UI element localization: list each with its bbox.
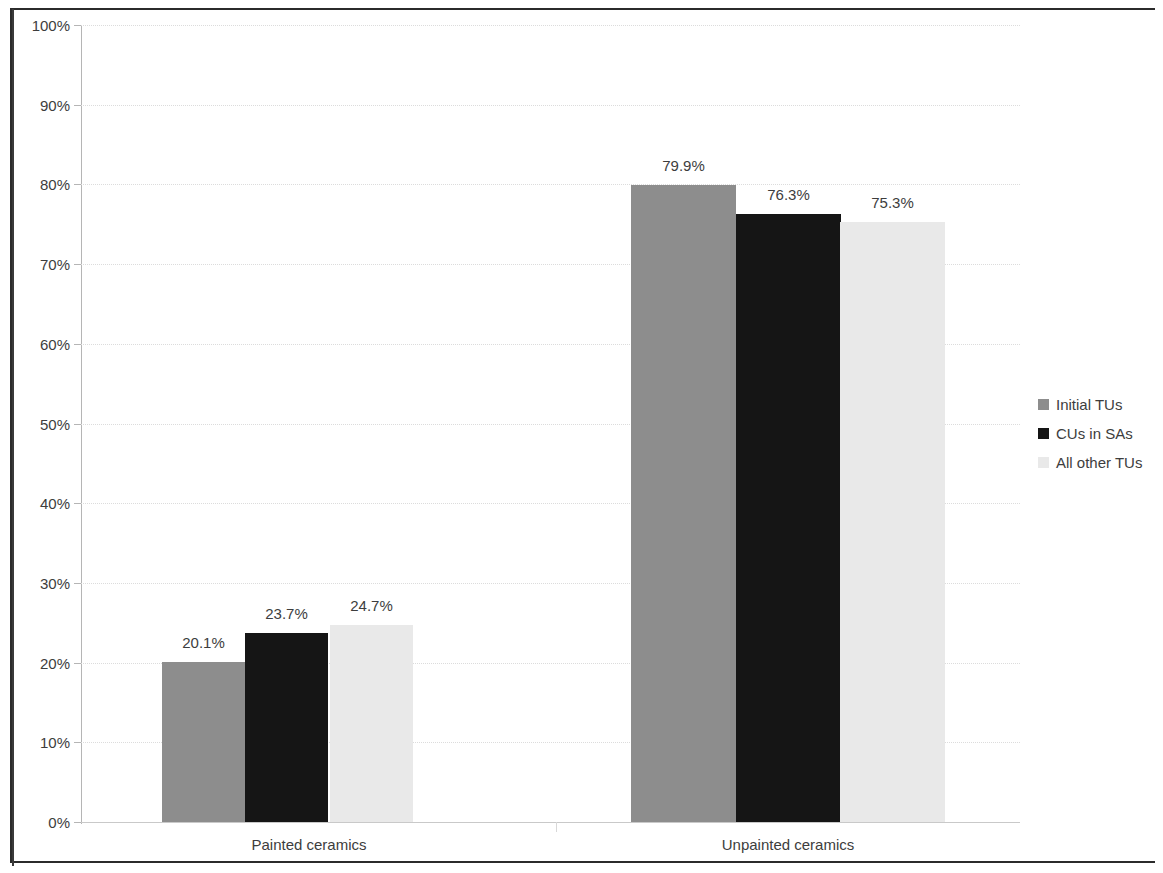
- y-axis-tick-label: 100%: [8, 17, 70, 34]
- bar: [330, 625, 413, 822]
- legend-item[interactable]: All other TUs: [1038, 448, 1163, 477]
- gridline-100: [81, 25, 1020, 26]
- bar-value-label: 76.3%: [767, 186, 810, 203]
- gridline-90: [81, 105, 1020, 106]
- legend-swatch-icon: [1038, 457, 1049, 468]
- bar-value-label: 20.1%: [182, 634, 225, 651]
- y-axis-tick: [74, 344, 81, 345]
- legend-item-label: Initial TUs: [1056, 396, 1122, 413]
- chart-legend: Initial TUsCUs in SAsAll other TUs: [1038, 390, 1163, 477]
- legend-item[interactable]: Initial TUs: [1038, 390, 1163, 419]
- y-axis-tick: [74, 424, 81, 425]
- chart-page: 0%10%20%30%40%50%60%70%80%90%100% Painte…: [0, 0, 1163, 873]
- bar: [736, 214, 841, 822]
- y-axis-labels: 0%10%20%30%40%50%60%70%80%90%100%: [0, 0, 70, 873]
- y-axis-tick: [74, 822, 81, 823]
- y-axis-tick: [74, 663, 81, 664]
- y-axis-tick: [74, 184, 81, 185]
- bar: [631, 185, 736, 822]
- bar-value-label: 79.9%: [662, 157, 705, 174]
- y-axis-tick-label: 20%: [8, 654, 70, 671]
- y-axis-tick-label: 10%: [8, 734, 70, 751]
- category-separator-tick: [556, 822, 557, 832]
- bar-value-label: 75.3%: [871, 194, 914, 211]
- y-axis-tick-label: 90%: [8, 96, 70, 113]
- bar-value-label: 24.7%: [350, 597, 393, 614]
- gridline-80: [81, 184, 1020, 185]
- bar: [162, 662, 245, 822]
- legend-swatch-icon: [1038, 428, 1049, 439]
- x-axis-category-label: Unpainted ceramics: [722, 836, 855, 853]
- y-axis-tick-label: 60%: [8, 335, 70, 352]
- y-axis-tick-label: 0%: [8, 814, 70, 831]
- y-axis-tick: [74, 105, 81, 106]
- x-axis-line: [81, 822, 1020, 823]
- y-axis-tick: [74, 25, 81, 26]
- y-axis-tick-label: 70%: [8, 256, 70, 273]
- y-axis-tick-label: 80%: [8, 176, 70, 193]
- legend-item-label: CUs in SAs: [1056, 425, 1133, 442]
- y-axis-tick-label: 30%: [8, 574, 70, 591]
- y-axis-tick-label: 40%: [8, 495, 70, 512]
- y-axis-tick: [74, 742, 81, 743]
- x-axis-category-label: Painted ceramics: [251, 836, 366, 853]
- legend-swatch-icon: [1038, 399, 1049, 410]
- bar: [840, 222, 945, 822]
- y-axis-tick-label: 50%: [8, 415, 70, 432]
- legend-item-label: All other TUs: [1056, 454, 1142, 471]
- y-axis-tick: [74, 264, 81, 265]
- plot-area: [81, 25, 1020, 822]
- bar: [245, 633, 328, 822]
- legend-item[interactable]: CUs in SAs: [1038, 419, 1163, 448]
- y-axis-tick: [74, 503, 81, 504]
- bar-value-label: 23.7%: [265, 605, 308, 622]
- y-axis-tick: [74, 583, 81, 584]
